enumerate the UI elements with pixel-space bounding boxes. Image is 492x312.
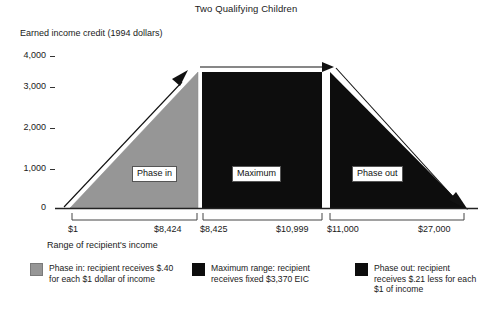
region-label-maximum: Maximum <box>232 166 281 182</box>
legend-swatch-maximum <box>192 263 205 276</box>
x-axis-label: Range of recipient's income <box>47 240 158 250</box>
x-label-phase-in-end: $8,424 <box>154 224 182 234</box>
x-label-phase-out-start: $11,000 <box>327 224 359 234</box>
legend-item-phase-in: Phase in: recipient receives $.40 for ea… <box>30 263 180 284</box>
x-label-maximum-end: $10,999 <box>276 224 309 234</box>
legend-label-maximum: Maximum range: recipient receives fixed … <box>211 263 341 284</box>
legend-item-maximum: Maximum range: recipient receives fixed … <box>192 263 344 284</box>
x-range-bracket-3 <box>330 213 464 220</box>
x-range-bracket-2 <box>203 213 322 220</box>
maximum-region <box>202 72 322 208</box>
phase-in-arrow-head <box>172 70 188 86</box>
x-label-phase-in-start: $1 <box>68 224 78 234</box>
x-range-bracket-1 <box>72 213 197 220</box>
phase-in-region <box>70 72 198 208</box>
legend-swatch-phase-in <box>30 263 43 276</box>
legend-label-phase-in: Phase in: recipient receives $.40 for ea… <box>49 263 177 284</box>
chart-page: Two Qualifying Children Earned income cr… <box>0 0 492 312</box>
region-label-phase-in: Phase in <box>132 166 177 182</box>
legend-swatch-phase-out <box>355 263 368 276</box>
region-label-phase-out: Phase out <box>352 166 403 182</box>
legend-label-phase-out: Phase out: recipient receives $.21 less … <box>374 263 484 295</box>
x-label-maximum-start: $8,425 <box>200 224 228 234</box>
plot-area <box>0 0 492 240</box>
legend-item-phase-out: Phase out: recipient receives $.21 less … <box>355 263 487 295</box>
maximum-arrow-head <box>322 62 334 72</box>
x-label-phase-out-end: $27,000 <box>418 224 451 234</box>
